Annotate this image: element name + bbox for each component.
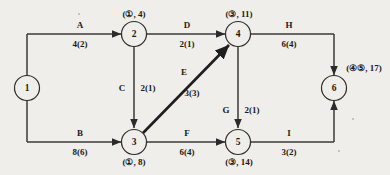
scan-speck xyxy=(352,118,354,120)
edge-g-name: G xyxy=(222,105,229,115)
node-5-tag: (③, 14) xyxy=(225,157,253,167)
node-3-tag: (①, 8) xyxy=(123,157,146,167)
edge-e-duration: 3(3) xyxy=(185,88,200,98)
edge-f-name: F xyxy=(184,128,190,138)
edge-e-name: E xyxy=(181,67,187,77)
node-2-label: 2 xyxy=(132,29,137,39)
edge-i-name: I xyxy=(287,128,291,138)
node-6-label: 6 xyxy=(332,83,337,93)
node-3-label: 3 xyxy=(132,137,137,147)
node-2-tag: (①, 4) xyxy=(123,9,146,19)
edge-a-name: A xyxy=(77,20,84,30)
node-4-label: 4 xyxy=(236,29,241,39)
network-diagram: 1 2 3 4 5 6 (①, 4) (①, 8) (③, 11) (③, 14… xyxy=(0,0,390,175)
edge-h-duration: 6(4) xyxy=(282,39,297,49)
node-1-label: 1 xyxy=(25,83,30,93)
node-6-tag: (④⑤, 17) xyxy=(346,63,382,73)
scan-speck xyxy=(338,150,340,152)
edge-g-duration: 2(1) xyxy=(245,105,260,115)
edge-f-duration: 6(4) xyxy=(180,147,195,157)
edge-a-duration: 4(2) xyxy=(73,39,88,49)
edge-b-duration: 8(6) xyxy=(73,147,88,157)
edge-i-duration: 3(2) xyxy=(282,147,297,157)
edge-b-name: B xyxy=(77,128,83,138)
edge-c-duration: 2(1) xyxy=(141,83,156,93)
scan-speck xyxy=(78,13,80,15)
edge-d-duration: 2(1) xyxy=(180,39,195,49)
node-5-label: 5 xyxy=(236,137,241,147)
node-4-tag: (③, 11) xyxy=(226,9,253,19)
edge-c-name: C xyxy=(119,83,126,93)
edge-d-name: D xyxy=(184,20,191,30)
edge-h-name: H xyxy=(285,20,292,30)
